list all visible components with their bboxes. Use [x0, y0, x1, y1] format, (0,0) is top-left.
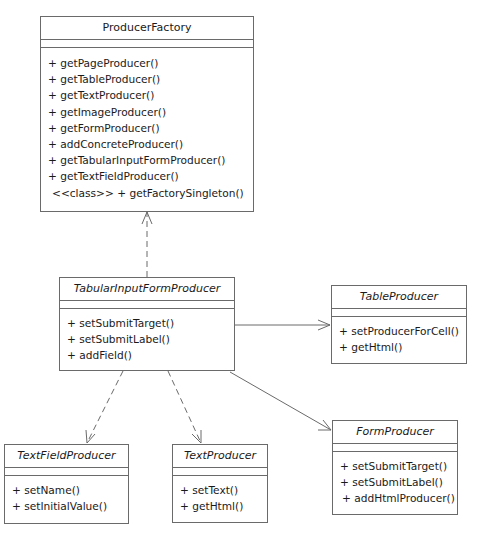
association-arrow-to-form-producer	[230, 372, 331, 430]
operation: + addField()	[67, 347, 234, 363]
class-tabular-input-form-producer: TabularInputFormProducer + setSubmitTarg…	[59, 277, 235, 371]
dependency-arrow-to-text-field-producer	[86, 371, 123, 443]
operation: + setSubmitTarget()	[340, 458, 457, 474]
class-name: ProducerFactory	[41, 17, 253, 40]
attributes-section	[41, 40, 253, 48]
attributes-section	[173, 468, 267, 476]
dependency-arrow-to-producer-factory	[142, 212, 152, 277]
attributes-section	[333, 444, 457, 452]
operation: + getHtml()	[339, 339, 466, 355]
operations-section: + setSubmitTarget() + setSubmitLabel() +…	[333, 452, 457, 507]
operations-section: + setName() + setInitialValue()	[5, 476, 128, 514]
operations-section: + setText() + getHtml()	[173, 476, 267, 514]
operation: + addHtmlProducer()	[342, 490, 457, 506]
class-table-producer: TableProducer + setProducerForCell() + g…	[331, 285, 467, 364]
operations-section: + setSubmitTarget() + setSubmitLabel() +…	[60, 309, 234, 364]
class-form-producer: FormProducer + setSubmitTarget() + setSu…	[332, 420, 458, 515]
operation: + addConcreteProducer()	[48, 136, 253, 152]
class-name: TextProducer	[173, 445, 267, 468]
operation: + getHtml()	[180, 498, 267, 514]
operation: + getPageProducer()	[48, 55, 253, 71]
class-text-field-producer: TextFieldProducer + setName() + setIniti…	[4, 444, 129, 524]
operation: + getImageProducer()	[48, 104, 253, 120]
operation: + setName()	[12, 482, 128, 498]
operation: + getTableProducer()	[48, 71, 253, 87]
class-name: TabularInputFormProducer	[60, 278, 234, 301]
dependency-arrow-to-text-producer	[168, 371, 201, 443]
operation: + getFormProducer()	[48, 120, 253, 136]
operations-section: + setProducerForCell() + getHtml()	[332, 317, 466, 355]
operation: + setSubmitLabel()	[67, 331, 234, 347]
operation: + getTextProducer()	[48, 87, 253, 103]
class-name: TextFieldProducer	[5, 445, 128, 468]
attributes-section	[332, 309, 466, 317]
association-arrow-to-table-producer	[234, 320, 330, 330]
operation: + getTabularInputFormProducer()	[48, 152, 253, 168]
operation: + setInitialValue()	[12, 498, 128, 514]
operation: + setText()	[180, 482, 267, 498]
operation: <<class>> + getFactorySingleton()	[52, 185, 253, 201]
class-name: TableProducer	[332, 286, 466, 309]
operation: + getTextFieldProducer()	[48, 168, 253, 184]
operations-section: + getPageProducer() + getTableProducer()…	[41, 48, 253, 201]
class-producer-factory: ProducerFactory + getPageProducer() + ge…	[40, 16, 254, 212]
attributes-section	[5, 468, 128, 476]
class-name: FormProducer	[333, 421, 457, 444]
operation: + setSubmitLabel()	[340, 474, 457, 490]
attributes-section	[60, 301, 234, 309]
operation: + setSubmitTarget()	[67, 315, 234, 331]
class-text-producer: TextProducer + setText() + getHtml()	[172, 444, 268, 523]
operation: + setProducerForCell()	[339, 323, 466, 339]
